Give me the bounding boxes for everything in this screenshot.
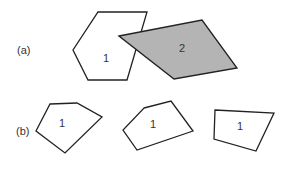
pentagon-left-polygon	[36, 103, 102, 153]
polygon-diagram: (a) 1 2 (b) 1 1 1	[0, 0, 290, 169]
part-a-label: (a)	[17, 44, 30, 56]
parallelogram-label: 2	[179, 42, 185, 54]
hexagon-label: 1	[103, 52, 109, 64]
part-b-label: (b)	[16, 125, 29, 137]
quadrilateral-right-polygon	[214, 110, 274, 151]
pentagon-left-label: 1	[59, 117, 65, 129]
pentagon-middle-polygon	[123, 101, 193, 150]
pentagon-middle-label: 1	[150, 118, 156, 130]
quadrilateral-right-label: 1	[237, 120, 243, 132]
